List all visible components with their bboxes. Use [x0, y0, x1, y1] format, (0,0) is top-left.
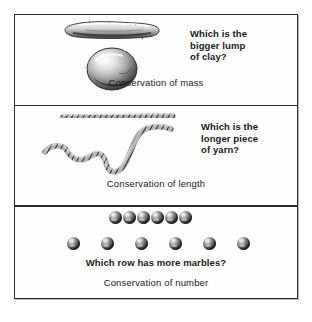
question-length-line-3: of yarn?	[201, 144, 258, 156]
question-marbles-line-1: Which row has more marbles?	[15, 257, 297, 269]
marble-row-close	[15, 211, 297, 225]
question-mass-line-3: of clay?	[190, 51, 247, 63]
straight-yarn	[63, 114, 173, 117]
caption-conservation-of-mass: Conservation of mass	[15, 77, 297, 88]
marble	[109, 211, 122, 224]
yarn-illustration	[15, 106, 195, 178]
marble	[151, 211, 164, 224]
conservation-tasks-figure: Which is the bigger lump of clay? Conser…	[14, 14, 298, 299]
question-length: Which is the longer piece of yarn?	[201, 121, 258, 156]
marble	[137, 211, 150, 224]
caption-conservation-of-length: Conservation of length	[15, 178, 297, 189]
question-mass-line-1: Which is the	[190, 28, 247, 40]
marble	[101, 237, 114, 250]
marble	[123, 211, 136, 224]
panel-conservation-of-mass: Which is the bigger lump of clay? Conser…	[15, 15, 297, 106]
marble	[67, 237, 80, 250]
panel-conservation-of-number: Which row has more marbles? Conservation…	[15, 207, 297, 298]
question-length-line-2: longer piece	[201, 133, 258, 145]
marble	[203, 237, 216, 250]
caption-conservation-of-number: Conservation of number	[15, 277, 297, 288]
marble	[169, 237, 182, 250]
question-marbles: Which row has more marbles?	[15, 257, 297, 269]
marble	[237, 237, 250, 250]
marbles-illustration	[15, 207, 297, 255]
marble-row-spread	[15, 237, 297, 251]
curved-yarn	[45, 125, 171, 172]
marble	[165, 211, 178, 224]
clay-sausage	[65, 22, 159, 39]
question-mass: Which is the bigger lump of clay?	[190, 28, 247, 63]
question-length-line-1: Which is the	[201, 121, 258, 133]
marble	[135, 237, 148, 250]
panel-conservation-of-length: Which is the longer piece of yarn? Conse…	[15, 106, 297, 207]
marble	[179, 211, 192, 224]
question-mass-line-2: bigger lump	[190, 40, 247, 52]
